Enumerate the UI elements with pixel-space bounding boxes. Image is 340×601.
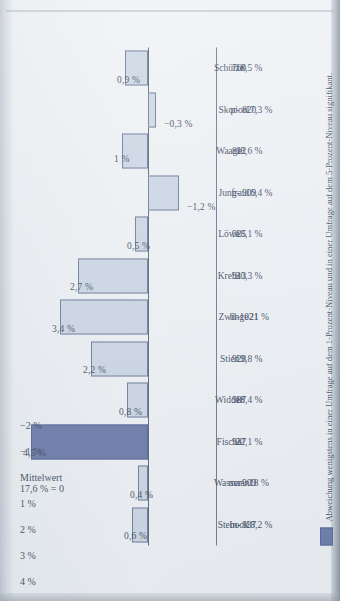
- bar-value-label: 0,4 %: [130, 489, 153, 499]
- legend-footnote: Abweichung wenigstens in einer Umfrage a…: [320, 25, 334, 545]
- bar-label-wrap: 2,7 %: [65, 264, 75, 287]
- bar-value-label: 0,8 %: [119, 406, 142, 416]
- bar-value-label: 1 %: [114, 154, 130, 164]
- category-label: Fische93722,1 %: [224, 421, 254, 463]
- category-percentage: 22,1 %: [228, 436, 270, 446]
- category-label: Waage81218,6 %: [224, 130, 254, 172]
- category-percentage: 21 %: [238, 312, 280, 322]
- legend-swatch-icon: [320, 527, 333, 545]
- value-axis-ticks: 5 %4 %3 %2 %1 %Mittelwert17,6 % = 0−1 %−…: [18, 419, 78, 601]
- value-tick-label: 2 %: [20, 523, 36, 534]
- bar-label-wrap: 3,4 %: [47, 305, 57, 328]
- bar-cell: 0,8 %: [18, 379, 200, 421]
- bar-label-wrap: 0,4 %: [125, 471, 135, 494]
- value-tick-label: 1 %: [20, 497, 36, 508]
- category-percentage: 20,3 %: [228, 270, 270, 280]
- bar-label-wrap: 0,8 %: [114, 388, 124, 411]
- bar-cell: −0,3 %: [18, 89, 200, 131]
- bar-label-wrap: 0,5 %: [122, 222, 132, 245]
- bar-value-label: 3,4 %: [52, 323, 75, 333]
- page-gutter-rule: [6, 10, 334, 11]
- category-label: Löwe92518,1 %: [224, 213, 254, 255]
- category-label: Jung-frau90916,4 %: [224, 172, 264, 214]
- category-percentage: 18,6 %: [228, 146, 270, 156]
- value-axis-spine: [216, 47, 217, 545]
- bar-value-label: 2,2 %: [83, 365, 106, 375]
- bar-chart: 0,6 %0,4 %4,5 %0,8 %2,2 %3,4 %2,7 %0,5 %…: [0, 0, 340, 601]
- legend-note-text: Abweichung wenigstens in einer Umfrage a…: [324, 72, 334, 521]
- bar-value-label: 0,5 %: [127, 240, 150, 250]
- bar-label-wrap: 0,9 %: [112, 56, 122, 79]
- bar-label-wrap: 2,2 %: [78, 347, 88, 370]
- bar-cell: 2,7 %: [18, 255, 200, 297]
- category-percentage: 17,3 %: [238, 104, 280, 114]
- bar-cell: 2,2 %: [18, 338, 200, 380]
- bar-value-label: 0,9 %: [117, 74, 140, 84]
- bar-label-wrap: −1,2 %: [182, 178, 192, 207]
- category-percentage: 18,1 %: [228, 229, 270, 239]
- category-percentage: 18 %: [238, 478, 280, 488]
- category-label: Skor-pion82017,3 %: [224, 89, 264, 131]
- bar-value-label: 2,7 %: [70, 282, 93, 292]
- bar-value-label: 0,6 %: [124, 531, 147, 541]
- value-tick-label: 4 %: [20, 575, 36, 586]
- value-tick-label: 3 %: [20, 549, 36, 560]
- category-label: Schütze76018,5 %: [224, 47, 254, 89]
- category-label: Stein-bock83718,2 %: [224, 504, 264, 546]
- bar-value-label: −0,3 %: [164, 119, 193, 129]
- category-percentage: 16,4 %: [238, 187, 280, 197]
- bar-label-wrap: 0,6 %: [119, 513, 129, 536]
- category-percentage: 18,4 %: [228, 395, 270, 405]
- bar-cell: 1 %: [18, 130, 200, 172]
- page-background: 0,6 %0,4 %4,5 %0,8 %2,2 %3,4 %2,7 %0,5 %…: [0, 0, 340, 601]
- bar-cell: −1,2 %: [18, 172, 200, 214]
- category-axis-labels: Stein-bock83718,2 %Wasser-mann90918 %Fis…: [224, 47, 304, 545]
- bar-cell: 3,4 %: [18, 296, 200, 338]
- bar-value-label: −1,2 %: [187, 202, 216, 212]
- mean-line1: Mittelwert: [20, 471, 62, 482]
- bar-label-wrap: 1 %: [109, 143, 119, 159]
- bar-cell: 0,9 %: [18, 47, 200, 89]
- category-label: Zwil-linge102121 %: [224, 296, 264, 338]
- rotated-figure: 0,6 %0,4 %4,5 %0,8 %2,2 %3,4 %2,7 %0,5 %…: [0, 0, 340, 601]
- bar-label-wrap: −0,3 %: [159, 95, 169, 124]
- category-label: Widder98718,4 %: [224, 379, 254, 421]
- value-tick-label: Mittelwert17,6 % = 0: [20, 471, 64, 493]
- bar: [148, 92, 156, 127]
- category-percentage: 18,2 %: [238, 519, 280, 529]
- category-percentage: 18,5 %: [228, 63, 270, 73]
- category-label: Wasser-mann90918 %: [224, 462, 264, 504]
- category-label: Stier92819,8 %: [224, 338, 254, 380]
- value-tick-label: −2 %: [20, 419, 41, 430]
- bar: [148, 175, 179, 210]
- category-label: Krebs91320,3 %: [224, 255, 254, 297]
- value-tick-label: −1 %: [20, 445, 41, 456]
- category-percentage: 19,8 %: [228, 353, 270, 363]
- mean-line2: 17,6 % = 0: [20, 482, 64, 493]
- bar-cell: 0,5 %: [18, 213, 200, 255]
